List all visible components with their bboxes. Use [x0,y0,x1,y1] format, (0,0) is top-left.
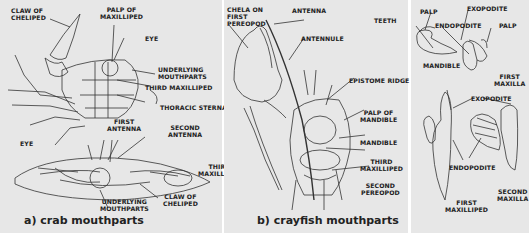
label-line: FIRST [499,73,519,80]
label-underlying-mouthparts-top: UNDERLYINGMOUTHPARTS [158,66,207,80]
label-mandible: MANDIBLE [360,139,397,146]
label-line: MOUTHPARTS [100,205,149,212]
label-third-maxilliped-top: THIRD MAXILLIPED [145,84,212,91]
label-endopodite-bottom: ENDOPODITE [449,164,495,171]
label-palp-maxilla: PALP [499,22,517,29]
label-eye-top: EYE [145,35,158,42]
appendages-panel: PALP MANDIBLE EXOPODITE ENDOPODITE PALP … [411,0,529,233]
label-line: UNDERLYING [158,66,203,73]
label-line: ANTENNA [107,125,141,132]
label-exopodite-bottom: EXOPODITE [471,95,512,102]
label-line: MAXILLIPED [360,165,403,172]
label-line: FIRST [114,118,134,125]
label-thoracic-sterna: THORACIC STERNA [160,104,227,111]
label-line: SECOND [498,188,527,195]
label-claw-of-cheliped: CLAW OFCHELIPED [11,7,46,21]
label-antenna: ANTENNA [292,7,326,14]
label-line: UNDERLYING [102,198,147,205]
label-line: SECOND [170,124,199,131]
crayfish-mouthparts-panel: CHELA ONFIRSTPEREOPOD ANTENNA ANTENNULE … [224,0,408,233]
label-first-maxilliped: FIRSTMAXILLIPED [445,199,488,213]
label-underlying-mouthparts-bottom: UNDERLYINGMOUTHPARTS [100,198,149,212]
label-eye-bottom: EYE [20,140,33,147]
label-antennule: ANTENNULE [301,35,344,42]
label-first-maxilla: FIRSTMAXILLA [494,73,525,87]
label-line: MAXILLIPED [445,206,488,213]
label-line: MAXILLA [497,195,528,202]
label-line: CLAW OF [164,193,196,200]
label-line: PALP OF [107,6,137,13]
label-second-antenna: SECONDANTENNA [168,124,202,138]
label-line: FIRST [456,199,476,206]
label-claw-of-cheliped-bottom: CLAW OFCHELIPED [163,193,198,207]
label-line: THIRD [371,158,393,165]
label-teeth: TEETH [374,17,397,24]
label-line: CHELIPED [163,200,198,207]
label-line: FIRST [227,13,247,20]
label-line: ANTENNA [168,131,202,138]
label-epistome-ridge: EPISTOME RIDGE [349,77,409,84]
label-first-antenna: FIRSTANTENNA [107,118,141,132]
label-line: PEREOPOD [361,189,400,196]
crab-mouthparts-panel: CLAW OFCHELIPED PALP OFMAXILLIPED EYE UN… [0,0,222,233]
label-line: MAXILLA [494,80,525,87]
label-third-maxilliped: THIRDMAXILLIPED [360,158,403,172]
label-mandible-appendage: MANDIBLE [423,62,460,69]
label-chela-on-first-pereopod: CHELA ONFIRSTPEREOPOD [227,6,266,27]
label-palp-of-mandible: PALP OFMANDIBLE [360,109,397,123]
label-line: PALP OF [364,109,394,116]
label-line: SECOND [366,182,395,189]
caption-crab: a) crab mouthparts [24,214,144,227]
label-palp-of-maxilliped: PALP OFMAXILLIPED [100,6,143,20]
label-line: CHELA ON [227,6,263,13]
label-palp-mandible: PALP [420,8,438,15]
caption-crayfish: b) crayfish mouthparts [257,214,399,227]
label-line: CHELIPED [11,14,46,21]
label-line: MANDIBLE [360,116,397,123]
label-second-maxilla: SECONDMAXILLA [497,188,528,202]
label-exopodite-top: EXOPODITE [467,5,508,12]
label-line: CLAW OF [11,7,43,14]
label-endopodite-top: ENDOPODITE [435,22,481,29]
label-line: MOUTHPARTS [158,73,207,80]
label-second-pereopod: SECONDPEREOPOD [361,182,400,196]
label-line: MAXILLIPED [100,13,143,20]
label-line: PEREOPOD [227,20,266,27]
